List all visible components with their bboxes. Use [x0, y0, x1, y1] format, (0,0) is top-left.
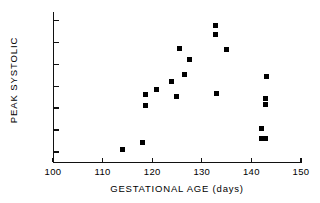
data-point	[224, 47, 229, 52]
data-point	[263, 96, 268, 101]
y-axis-tick	[54, 107, 59, 108]
y-axis-tick	[54, 42, 59, 43]
data-point	[213, 32, 218, 37]
data-point	[174, 94, 179, 99]
data-point	[143, 103, 148, 108]
x-axis-tick	[300, 158, 301, 163]
data-point	[213, 23, 218, 28]
y-axis-tick	[54, 129, 59, 130]
data-point	[120, 147, 125, 152]
x-axis-tick	[152, 158, 153, 163]
y-axis-tick	[54, 64, 59, 65]
y-axis-tick	[54, 20, 59, 21]
data-point	[169, 79, 174, 84]
data-point	[263, 136, 268, 141]
data-point	[177, 46, 182, 51]
y-axis-tick	[54, 86, 59, 87]
data-point	[259, 126, 264, 131]
x-axis-tick	[102, 158, 103, 163]
y-axis-tick	[54, 151, 59, 152]
x-axis-tick-label: 140	[236, 167, 266, 177]
y-axis-title: PEAK SYSTOLIC	[6, 0, 20, 160]
x-axis-tick-label: 110	[88, 167, 118, 177]
x-axis-tick	[201, 158, 202, 163]
x-axis-line	[53, 162, 302, 163]
data-point	[187, 57, 192, 62]
plot-area	[53, 16, 301, 163]
y-axis-line	[53, 12, 54, 163]
x-axis-tick-label: 150	[286, 167, 316, 177]
data-point	[264, 74, 269, 79]
data-point	[140, 140, 145, 145]
scatter-plot-figure: PEAK SYSTOLIC GESTATIONAL AGE (days) 708…	[0, 0, 320, 203]
x-axis-tick-label: 130	[187, 167, 217, 177]
data-point	[182, 72, 187, 77]
x-axis-tick-label: 100	[38, 167, 68, 177]
data-point	[143, 92, 148, 97]
x-axis-tick	[251, 158, 252, 163]
data-point	[214, 91, 219, 96]
x-axis-title: GESTATIONAL AGE (days)	[53, 183, 301, 194]
data-point	[154, 87, 159, 92]
x-axis-tick	[52, 158, 53, 163]
x-axis-tick-label: 120	[137, 167, 167, 177]
data-point	[263, 102, 268, 107]
